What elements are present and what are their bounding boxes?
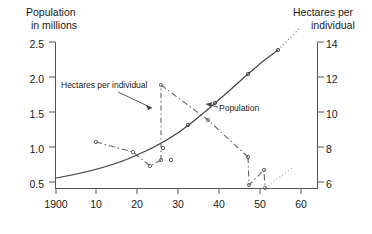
plot-area [0,0,372,234]
annotation-leaders [118,92,218,110]
chart-figure: Population in millions Hectares per indi… [0,0,372,234]
x-axis [56,189,318,195]
series-population [56,28,300,178]
series-hectares [94,83,292,189]
hectares-markers [94,83,266,189]
right-axis [318,42,325,189]
left-axis [49,42,56,189]
